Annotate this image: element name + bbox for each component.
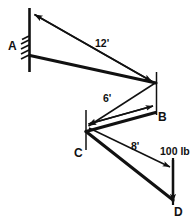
dimension-AB	[35, 15, 157, 116]
wall-hatching	[21, 36, 29, 59]
fixed-wall-support	[21, 8, 30, 72]
node-label-D: D	[174, 206, 183, 218]
dimension-label-8ft: 8'	[131, 141, 139, 152]
node-label-B: B	[158, 111, 167, 123]
frame-diagram-figure: A B C D 12' 6' 8' 100 lb	[0, 0, 196, 223]
member-AB	[30, 56, 156, 84]
node-label-C: C	[74, 147, 83, 159]
dimension-label-12ft: 12'	[95, 38, 109, 49]
dimension-label-6ft: 6'	[103, 93, 111, 104]
dimension-AB-arrow-right	[35, 15, 153, 82]
member-CD	[86, 132, 173, 201]
dimension-6ft-leader	[89, 83, 157, 127]
dimension-CD-arrow-right	[89, 128, 170, 167]
node-label-A: A	[8, 40, 17, 52]
load-label-100lb: 100 lb	[160, 146, 190, 157]
